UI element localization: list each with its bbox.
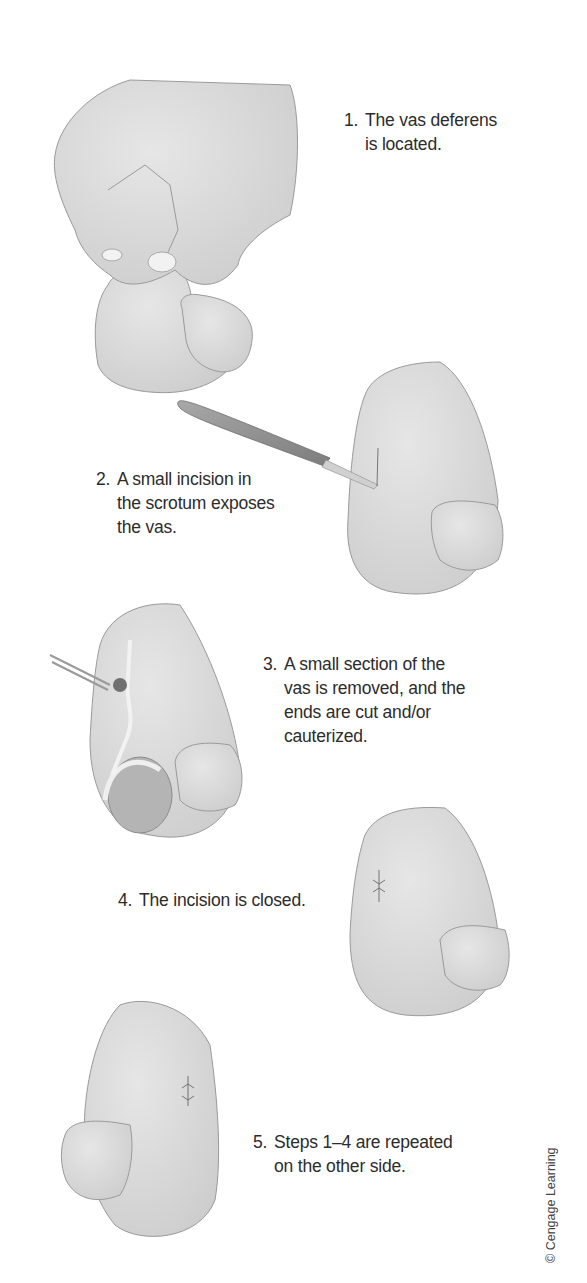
step-4-label: 4. The incision is closed. <box>118 888 306 912</box>
step-2-text: A small incision in the scrotum exposes … <box>96 467 275 539</box>
step-5-text: Steps 1–4 are repeated on the other side… <box>253 1130 453 1178</box>
copyright-credit: © Cengage Learning <box>544 1147 558 1263</box>
step-5-number: 5. <box>253 1130 267 1154</box>
vasectomy-illustrations <box>0 0 587 1283</box>
step-5-label: 5. Steps 1–4 are repeated on the other s… <box>253 1130 453 1178</box>
step-4-illustration <box>350 807 509 1015</box>
step-3-number: 3. <box>263 652 277 676</box>
step-5-illustration <box>61 1001 218 1236</box>
step-4-number: 4. <box>118 888 132 912</box>
step-3-illustration <box>50 604 242 837</box>
step-2-label: 2. A small incision in the scrotum expos… <box>96 467 275 539</box>
step-3-label: 3. A small section of the vas is removed… <box>263 652 465 748</box>
scalpel-icon <box>178 401 330 466</box>
step-2-number: 2. <box>96 467 110 491</box>
step-1-text: The vas deferens is located. <box>344 108 497 156</box>
step-1-label: 1. The vas deferens is located. <box>344 108 497 156</box>
step-3-text: A small section of the vas is removed, a… <box>263 652 465 748</box>
step-1-illustration <box>54 80 297 393</box>
step-4-text: The incision is closed. <box>118 888 306 912</box>
step-1-number: 1. <box>344 108 358 132</box>
